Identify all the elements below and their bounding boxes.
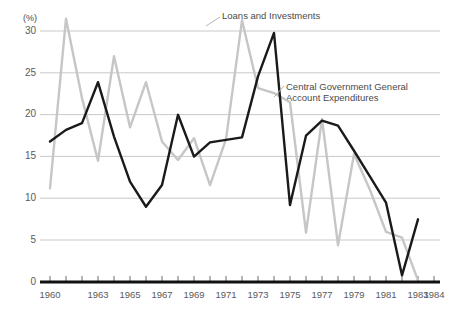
chart-plot-area <box>0 0 462 318</box>
gridlines <box>40 31 440 240</box>
chart-container: (%) 30 25 20 15 10 5 0 1960 1963 1965 19… <box>0 0 462 318</box>
series-line-loans-and-investments <box>50 19 418 281</box>
series-line-central-government-expenditures <box>50 33 418 275</box>
